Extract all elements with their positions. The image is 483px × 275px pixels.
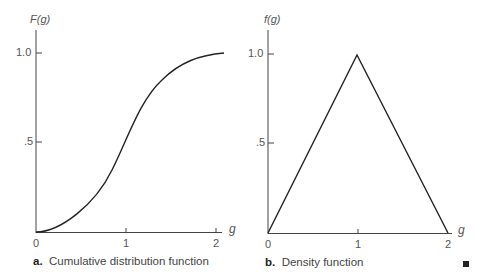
pdf-ytick-05: .5 xyxy=(256,136,265,148)
pdf-xtick-0: 0 xyxy=(265,238,271,250)
pdf-xlabel: g xyxy=(458,223,465,237)
cdf-ytick-1: 1.0 xyxy=(16,46,31,58)
cdf-caption-text: Cumulative distribution function xyxy=(49,255,209,267)
pdf-caption-letter: b. xyxy=(265,256,275,268)
cdf-xtick-2: 2 xyxy=(213,237,219,249)
end-of-proof-mark xyxy=(463,261,469,267)
pdf-caption: b. Density function xyxy=(265,256,363,268)
cdf-curve xyxy=(36,53,224,232)
pdf-xtick-1: 1 xyxy=(355,238,361,250)
cdf-xtick-0: 0 xyxy=(33,237,39,249)
pdf-caption-text: Density function xyxy=(282,256,364,268)
cdf-ytick-05: .5 xyxy=(24,135,33,147)
cdf-ylabel: F(g) xyxy=(30,13,50,25)
cdf-caption: a. Cumulative distribution function xyxy=(33,255,209,267)
charts-canvas xyxy=(0,0,483,275)
pdf-ytick-1: 1.0 xyxy=(248,47,263,59)
pdf-xtick-2: 2 xyxy=(445,238,451,250)
cdf-caption-letter: a. xyxy=(33,255,43,267)
cdf-xlabel: g xyxy=(229,222,236,236)
pdf-ylabel: f(g) xyxy=(264,13,281,25)
pdf-triangle xyxy=(268,55,448,233)
cdf-xtick-1: 1 xyxy=(123,237,129,249)
